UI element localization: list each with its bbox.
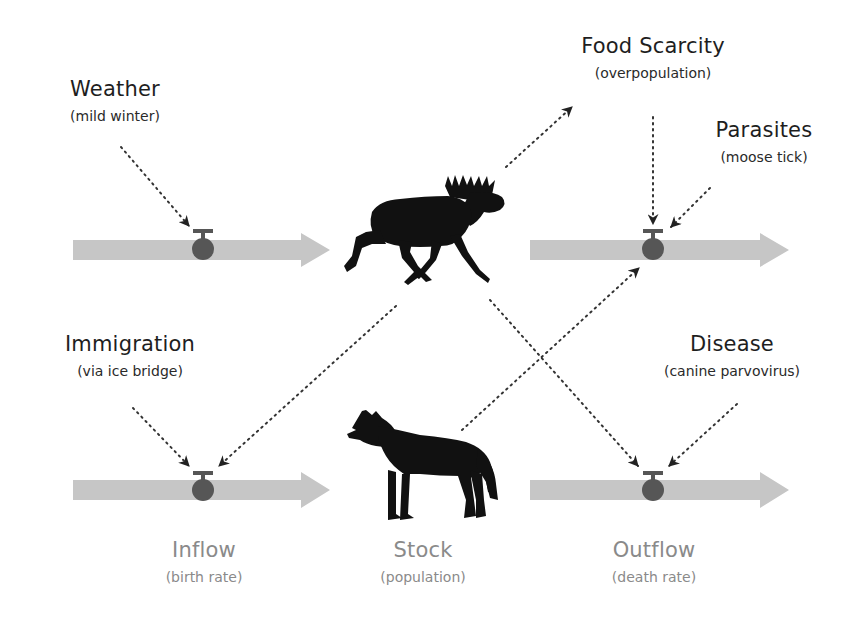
factor-food-scarcity-subtitle: (overpopulation) xyxy=(581,66,725,80)
factor-weather-title: Weather xyxy=(70,79,160,100)
legend-inflow-title: Inflow xyxy=(166,540,243,561)
link-disease-to-wolf-outflow xyxy=(669,404,737,466)
legend-stock-title: Stock xyxy=(380,540,465,561)
factor-weather-subtitle: (mild winter) xyxy=(70,109,160,123)
factor-weather: Weather (mild winter) xyxy=(70,79,160,123)
wolf-icon xyxy=(347,410,498,520)
factor-disease-subtitle: (canine parvovirus) xyxy=(664,364,800,378)
factor-immigration-title: Immigration xyxy=(65,334,195,355)
moose-inflow-valve-icon xyxy=(192,229,214,260)
legend-stock: Stock (population) xyxy=(380,540,465,584)
wolf-inflow-valve-icon xyxy=(192,471,214,501)
legend-inflow: Inflow (birth rate) xyxy=(166,540,243,584)
factor-parasites-title: Parasites xyxy=(716,120,813,141)
factor-food-scarcity: Food Scarcity (overpopulation) xyxy=(581,36,725,80)
legend-inflow-subtitle: (birth rate) xyxy=(166,570,243,584)
legend-stock-subtitle: (population) xyxy=(380,570,465,584)
link-weather-to-moose-inflow xyxy=(121,147,189,226)
link-moose-to-wolf-outflow xyxy=(490,300,638,466)
moose-icon xyxy=(344,175,505,285)
factor-disease-title: Disease xyxy=(664,334,800,355)
factor-disease: Disease (canine parvovirus) xyxy=(664,334,800,378)
link-immigration-to-wolf-inflow xyxy=(133,408,189,466)
factor-parasites-subtitle: (moose tick) xyxy=(716,150,813,164)
factor-parasites: Parasites (moose tick) xyxy=(716,120,813,164)
link-moose-to-food-scarcity xyxy=(506,107,572,167)
legend-outflow-title: Outflow xyxy=(612,540,696,561)
link-wolf-to-moose-outflow xyxy=(462,268,639,430)
legend-outflow: Outflow (death rate) xyxy=(612,540,696,584)
factor-food-scarcity-title: Food Scarcity xyxy=(581,36,725,57)
moose-outflow-valve-icon xyxy=(642,229,664,260)
link-parasites-to-moose-outflow xyxy=(671,188,710,227)
wolf-outflow-valve-icon xyxy=(642,471,664,501)
factor-immigration: Immigration (via ice bridge) xyxy=(65,334,195,378)
legend-outflow-subtitle: (death rate) xyxy=(612,570,696,584)
factor-immigration-subtitle: (via ice bridge) xyxy=(65,364,195,378)
